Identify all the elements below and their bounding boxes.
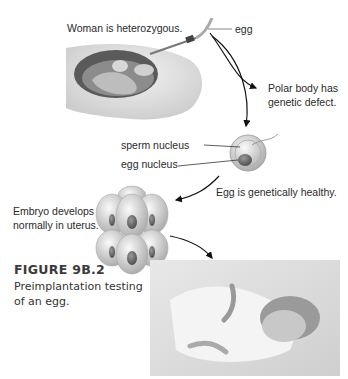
label-egg: egg (235, 23, 253, 36)
label-woman-heterozygous: Woman is heterozygous. (67, 22, 182, 35)
figure-caption-line1: Preimplantation testing (14, 280, 143, 294)
fertilized-egg-illustration (178, 134, 278, 171)
abdomen-illustration (66, 44, 202, 119)
label-embryo-line1: Embryo develops (13, 205, 94, 218)
label-sperm-nucleus: sperm nucleus (121, 139, 189, 152)
label-embryo-line2: normally in uterus. (13, 219, 99, 232)
label-polar-body-line1: Polar body has (268, 82, 338, 95)
figure-title: FIGURE 9B.2 (14, 262, 105, 277)
label-egg-nucleus: egg nucleus (121, 158, 178, 171)
figure-caption-line2: of an egg. (14, 295, 70, 309)
newborn-photo (150, 260, 340, 376)
label-egg-healthy: Egg is genetically healthy. (216, 186, 337, 199)
label-polar-body-line2: genetic defect. (268, 96, 336, 109)
